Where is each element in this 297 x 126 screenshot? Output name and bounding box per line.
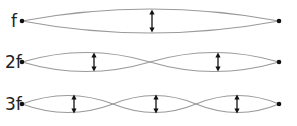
wave-loop <box>22 96 113 113</box>
standing-wave-diagram: f 2f 3f <box>0 0 297 126</box>
node-dot <box>20 19 25 24</box>
wave-loop <box>150 53 279 72</box>
node-dot <box>277 60 282 65</box>
label-f: f <box>11 11 18 31</box>
harmonic-row-f: f <box>11 9 281 33</box>
harmonic-row-3f: 3f <box>5 94 281 114</box>
wave-loop <box>22 53 150 72</box>
node-dot <box>277 19 282 24</box>
node-dot <box>20 60 25 65</box>
wave-loop <box>113 96 196 113</box>
node-dot <box>277 102 282 107</box>
node-dot <box>20 102 25 107</box>
wave-loop <box>22 9 279 33</box>
harmonic-row-2f: 2f <box>5 52 281 72</box>
